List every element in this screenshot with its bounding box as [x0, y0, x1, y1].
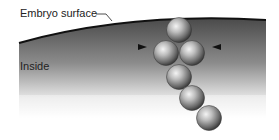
cell-sphere — [180, 41, 205, 66]
interior-fade — [15, 95, 270, 140]
embryo-surface-label: Embryo surface — [20, 8, 97, 19]
cell-sphere — [167, 18, 192, 43]
cell-sphere — [167, 65, 192, 90]
cell-sphere — [154, 41, 179, 66]
inside-label: Inside — [20, 61, 49, 72]
surface-label-leader — [96, 14, 112, 21]
cell-sphere — [197, 106, 222, 131]
cell-sphere — [180, 86, 205, 111]
